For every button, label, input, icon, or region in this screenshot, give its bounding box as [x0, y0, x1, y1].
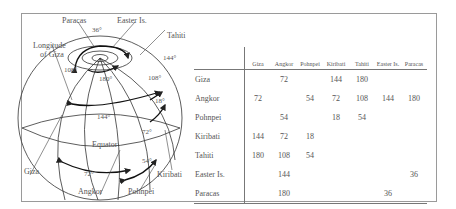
- table-cell: [323, 127, 349, 146]
- table-cell: 180: [271, 184, 297, 204]
- table-cell: [401, 146, 427, 165]
- angle-54: 54°: [142, 157, 152, 165]
- table-cell: 144: [245, 127, 272, 146]
- table-cell: 180: [349, 70, 375, 90]
- row-label: Kiribati: [194, 127, 245, 146]
- table-cell: [401, 108, 427, 127]
- table-cell: [375, 165, 401, 184]
- table-cell: 54: [297, 89, 323, 108]
- table-cell: 72: [271, 70, 297, 90]
- row-label: Tahiti: [194, 146, 245, 165]
- table-cell: [401, 70, 427, 90]
- table-cell: 108: [271, 146, 297, 165]
- angle-72-mid: 72°: [142, 128, 152, 136]
- table-row: Kiribati1447218: [194, 127, 427, 146]
- label-kiribati: Kiribati: [157, 170, 183, 179]
- label-easter-island: Easter Is.: [117, 16, 147, 25]
- table-corner: [194, 47, 245, 70]
- col-header: Angkor: [271, 47, 297, 70]
- row-label: Angkor: [194, 89, 245, 108]
- table-cell: [401, 184, 427, 204]
- label-pohnpei: Pohnpei: [128, 187, 155, 196]
- table-cell: 36: [401, 165, 427, 184]
- angle-108-left: 108°: [64, 66, 78, 74]
- table-cell: [245, 108, 272, 127]
- table-cell: 108: [349, 89, 375, 108]
- label-equator: Equator: [92, 140, 118, 149]
- table-cell: [349, 146, 375, 165]
- table-cell: 144: [375, 89, 401, 108]
- angle-144-mid: 144°: [97, 113, 111, 121]
- angle-72-low: 72°: [84, 170, 94, 178]
- table-cell: [323, 146, 349, 165]
- label-tahiti: Tahiti: [167, 31, 186, 40]
- col-header: Paracas: [401, 47, 427, 70]
- table-row: Tahiti18010854: [194, 146, 427, 165]
- angle-108-right: 108°: [148, 74, 162, 82]
- col-header: Kiribati: [323, 47, 349, 70]
- row-label: Paracas: [194, 184, 245, 204]
- table-cell: [349, 165, 375, 184]
- table-cell: 144: [323, 70, 349, 90]
- table-cell: 18: [297, 127, 323, 146]
- table-cell: 72: [271, 127, 297, 146]
- table-cell: [323, 184, 349, 204]
- table-cell: 144: [271, 165, 297, 184]
- angle-36: 36°: [92, 26, 102, 34]
- table-cell: [245, 184, 272, 204]
- table-cell: 36: [375, 184, 401, 204]
- table-cell: 18: [323, 108, 349, 127]
- label-giza: Giza: [24, 167, 40, 176]
- table-row: Easter Is.14436: [194, 165, 427, 184]
- col-header: Tahiti: [349, 47, 375, 70]
- table-cell: [375, 70, 401, 90]
- col-header: Giza: [245, 47, 272, 70]
- table-row: Paracas18036: [194, 184, 427, 204]
- table-row: Angkor725472108144180: [194, 89, 427, 108]
- row-label: Giza: [194, 70, 245, 90]
- table-cell: [375, 146, 401, 165]
- table-cell: 54: [271, 108, 297, 127]
- table-cell: [245, 70, 272, 90]
- table-cell: [297, 70, 323, 90]
- table-header-row: Giza Angkor Pohnpei Kiribati Tahiti East…: [194, 47, 427, 70]
- label-longitude-2: of Giza: [40, 50, 64, 59]
- col-header: Easter Is.: [375, 47, 401, 70]
- table-cell: 54: [297, 146, 323, 165]
- table-cell: [297, 108, 323, 127]
- globe-diagram: Paracas Easter Is. Tahiti Longitude of G…: [0, 0, 200, 209]
- angle-180: 180°: [99, 75, 113, 83]
- table-cell: [323, 165, 349, 184]
- row-label: Easter Is.: [194, 165, 245, 184]
- label-longitude-1: Longitude: [33, 41, 66, 50]
- table-row: Giza72144180: [194, 70, 427, 90]
- col-header: Pohnpei: [297, 47, 323, 70]
- table-cell: [271, 89, 297, 108]
- label-angkor: Angkor: [78, 187, 103, 196]
- table-cell: [401, 127, 427, 146]
- distance-table: Giza Angkor Pohnpei Kiribati Tahiti East…: [194, 47, 434, 187]
- angle-18: 18°: [155, 97, 165, 105]
- label-paracas: Paracas: [62, 16, 86, 25]
- table-row: Pohnpei541854: [194, 108, 427, 127]
- table-cell: [245, 165, 272, 184]
- angle-144-top: 144°: [163, 54, 177, 62]
- table-cell: [375, 108, 401, 127]
- table-cell: 72: [323, 89, 349, 108]
- table-cell: 72: [245, 89, 272, 108]
- table-cell: 180: [245, 146, 272, 165]
- table-cell: [349, 127, 375, 146]
- table-cell: [349, 184, 375, 204]
- row-label: Pohnpei: [194, 108, 245, 127]
- table-cell: [297, 165, 323, 184]
- table-cell: 54: [349, 108, 375, 127]
- table-cell: [297, 184, 323, 204]
- table-cell: [375, 127, 401, 146]
- table-cell: 180: [401, 89, 427, 108]
